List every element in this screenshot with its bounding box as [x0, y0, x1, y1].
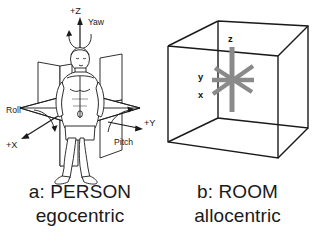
room-edge-top-left: [168, 21, 218, 46]
y-axis-label: +Y: [144, 118, 156, 128]
caption-person-title: a: PERSON: [0, 181, 160, 203]
room-edge-bottom-right: [278, 128, 308, 158]
y-axis-arrowhead: [135, 126, 143, 132]
pitch-label: Pitch: [114, 137, 133, 147]
room-x-label: x: [198, 89, 204, 100]
caption-room-subtitle: allocentric: [160, 205, 315, 227]
z-axis-arrowhead: [77, 17, 83, 25]
room-front-face: [168, 46, 278, 158]
room-edge-top-right: [278, 26, 308, 56]
room-y-label: y: [198, 71, 204, 82]
caption-person-subtitle: egocentric: [0, 205, 160, 227]
caption-room-title: b: ROOM: [160, 181, 315, 203]
room-z-label: z: [228, 33, 233, 44]
yaw-label: Yaw: [88, 17, 105, 27]
roll-label: Roll: [6, 105, 21, 115]
room-box: [168, 21, 308, 158]
yaw-arrowhead: [66, 30, 72, 37]
figure-canvas: +Z Yaw: [0, 0, 315, 245]
x-axis-label: +X: [6, 140, 18, 150]
panel-room-allocentric: z y x b: ROOM allocentric: [160, 0, 315, 245]
caption-room: b: ROOM allocentric: [160, 181, 315, 228]
x-axis-arrowhead: [21, 133, 30, 139]
panel-person-egocentric: +Z Yaw: [0, 0, 160, 245]
person-diagram: +Z Yaw: [0, 0, 160, 180]
z-axis-label: +Z: [70, 6, 81, 16]
room-edge-bottom-left: [168, 118, 218, 142]
roll-arrowhead: [52, 125, 58, 132]
room-diagram: z y x: [160, 0, 315, 180]
caption-person: a: PERSON egocentric: [0, 181, 160, 228]
